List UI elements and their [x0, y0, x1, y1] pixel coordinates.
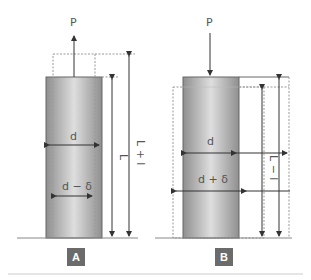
- diameter-reduced-label-a: d − δ: [62, 180, 92, 193]
- badge-a-label: A: [72, 251, 80, 263]
- badge-b-label: B: [220, 251, 228, 263]
- length-label-a: L: [117, 154, 130, 161]
- strain-diagram: P d d − δ L L + l A P d: [0, 0, 311, 280]
- diameter-label-b: d: [207, 135, 214, 148]
- length-extended-label-a: L + l: [134, 140, 147, 165]
- diameter-expanded-label-b: d + δ: [198, 173, 228, 186]
- panel-b: P d d + δ L − l B: [155, 16, 292, 266]
- cylinder-a: [46, 77, 102, 238]
- length-compressed-label-b: L − l: [267, 155, 280, 180]
- panel-a: P d d − δ L L + l A: [17, 16, 147, 266]
- cylinder-b: [183, 77, 239, 238]
- diameter-label-a: d: [70, 130, 77, 143]
- load-label-b: P: [206, 16, 213, 29]
- load-label-a: P: [70, 16, 77, 29]
